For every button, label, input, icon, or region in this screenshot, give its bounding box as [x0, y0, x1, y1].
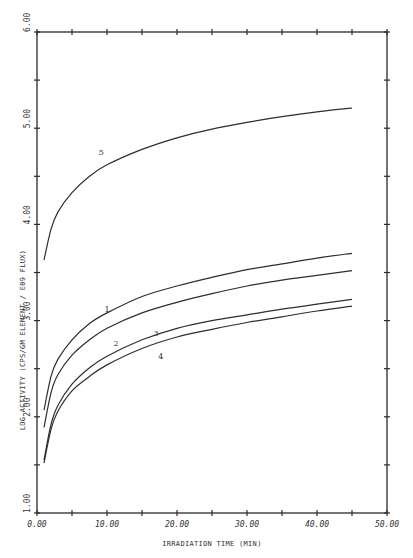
x-tick-label: 40.00 [305, 520, 329, 529]
curve-5 [44, 108, 352, 260]
y-tick-label: 4.00 [23, 205, 32, 224]
activity-vs-irradiation-chart: 0.0010.0020.0030.0040.0050.00 1.002.003.… [0, 0, 413, 558]
x-tick-label: 30.00 [234, 520, 259, 529]
x-tick-label: 20.00 [165, 520, 189, 529]
curve-label-2: 2 [114, 339, 119, 348]
y-axis-title: LOG ACTIVITY (CPS/GM ELEMENT / E09 FLUX) [19, 250, 27, 431]
y-tick-label: 6.00 [23, 13, 32, 32]
curve-labels: 51234 [99, 148, 164, 361]
curve-label-1: 1 [104, 305, 109, 314]
x-tick-labels: 0.0010.0020.0030.0040.0050.00 [27, 520, 399, 529]
x-tick-label: 0.00 [27, 520, 46, 529]
curve-label-5: 5 [99, 148, 104, 157]
curve-label-4: 4 [158, 352, 163, 361]
y-tick-label: 5.00 [23, 109, 32, 128]
x-tick-label: 50.00 [375, 520, 399, 529]
data-curves [44, 108, 352, 463]
x-tick-label: 10.00 [95, 520, 119, 529]
curve-4 [44, 306, 352, 463]
curve-2 [44, 271, 352, 428]
y-tick-label: 1.00 [23, 494, 32, 513]
x-axis-title: IRRADIATION TIME (MIN) [162, 540, 261, 548]
curve-label-3: 3 [153, 329, 158, 338]
